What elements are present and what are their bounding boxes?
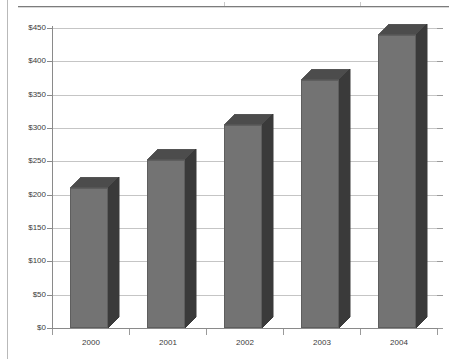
bar-2003 <box>301 69 350 328</box>
x-axis-label-2001: 2001 <box>130 338 206 347</box>
y-axis-label: $100 <box>0 257 46 265</box>
y-axis-label: $350 <box>0 91 46 99</box>
y-axis-line <box>52 26 53 329</box>
x-axis-tick <box>360 329 361 335</box>
y-axis-label: $250 <box>0 157 46 165</box>
bar-2004 <box>378 24 427 328</box>
bar-front-face <box>70 188 108 328</box>
x-axis-tick <box>283 329 284 335</box>
y-axis-label: $300 <box>0 124 46 132</box>
y-axis-label: $400 <box>0 57 46 65</box>
bar-2002 <box>224 114 273 328</box>
x-axis-label-2000: 2000 <box>53 338 129 347</box>
x-axis-tick <box>52 329 53 335</box>
chart-page: $0$50$100$150$200$250$300$350$400$450 20… <box>0 0 449 359</box>
page-border-left <box>7 0 8 359</box>
bar-side-face <box>416 24 429 330</box>
y-axis-label: $200 <box>0 191 46 199</box>
y-axis-tick-right <box>437 28 443 29</box>
y-axis-tick-right <box>437 161 443 162</box>
bar-side-face <box>185 149 198 330</box>
top-rule-tick <box>224 2 225 6</box>
x-axis-label-2002: 2002 <box>207 338 283 347</box>
y-axis-label: $450 <box>0 24 46 32</box>
y-axis-tick-right <box>437 195 443 196</box>
x-axis-tick <box>437 329 438 335</box>
x-axis-label-2004: 2004 <box>361 338 437 347</box>
y-axis-tick-right <box>437 295 443 296</box>
y-axis-tick-right <box>437 261 443 262</box>
x-axis-label-2003: 2003 <box>284 338 360 347</box>
y-axis-tick-right <box>437 228 443 229</box>
bar-front-face <box>147 160 185 328</box>
top-horizontal-rule-shadow <box>18 7 449 8</box>
bar-2001 <box>147 149 196 328</box>
y-axis-tick-right <box>437 61 443 62</box>
bar-side-face <box>108 177 121 330</box>
top-rule-tick <box>360 2 361 6</box>
y-axis-label: $50 <box>0 291 46 299</box>
bar-front-face <box>224 125 262 328</box>
bar-front-face <box>378 35 416 328</box>
x-axis-tick <box>206 329 207 335</box>
y-axis-label: $150 <box>0 224 46 232</box>
bar-side-face <box>339 69 352 330</box>
y-axis-label: $0 <box>0 324 46 332</box>
y-axis-tick-right <box>437 128 443 129</box>
bar-front-face <box>301 80 339 328</box>
x-axis-tick <box>129 329 130 335</box>
bar-2000 <box>70 177 119 328</box>
y-axis-tick-right <box>437 95 443 96</box>
bar-side-face <box>262 114 275 330</box>
